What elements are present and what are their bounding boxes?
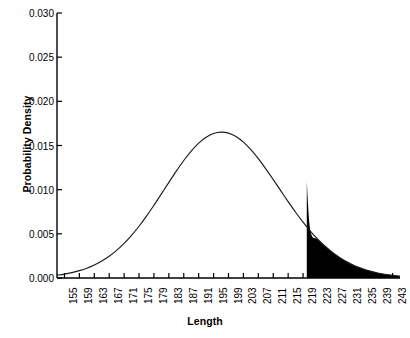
shaded-tail-region xyxy=(307,182,400,278)
plot-area xyxy=(0,0,410,338)
axis-lines xyxy=(57,13,400,278)
density-curve xyxy=(57,132,400,276)
figure-caption xyxy=(40,330,370,338)
probability-density-chart: Probability Density Length 0.0000.0050.0… xyxy=(0,0,410,338)
axis-tick-marks xyxy=(57,13,393,278)
